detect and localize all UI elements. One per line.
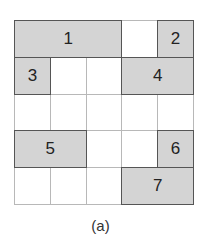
- block-1: 1: [14, 20, 122, 58]
- grid-cell: [121, 20, 158, 58]
- grid-cell: [86, 57, 123, 95]
- grid-cell: [50, 94, 87, 132]
- block-7: 7: [121, 167, 194, 205]
- block-2: 2: [157, 20, 194, 58]
- grid-cell: [121, 94, 158, 132]
- block-4: 4: [121, 57, 194, 95]
- grid-cell: [50, 57, 87, 95]
- grid-cell: [86, 130, 123, 168]
- block-6: 6: [157, 130, 194, 168]
- grid-cell: [86, 167, 123, 205]
- block-3: 3: [14, 57, 51, 95]
- block-grid: 1234567: [14, 20, 193, 204]
- grid-cell: [121, 130, 158, 168]
- grid-cell: [50, 167, 87, 205]
- grid-cell: [14, 94, 51, 132]
- grid-cell: [14, 167, 51, 205]
- figure-caption: (a): [0, 217, 201, 234]
- grid-cell: [86, 94, 123, 132]
- block-5: 5: [14, 130, 87, 168]
- grid-cell: [157, 94, 194, 132]
